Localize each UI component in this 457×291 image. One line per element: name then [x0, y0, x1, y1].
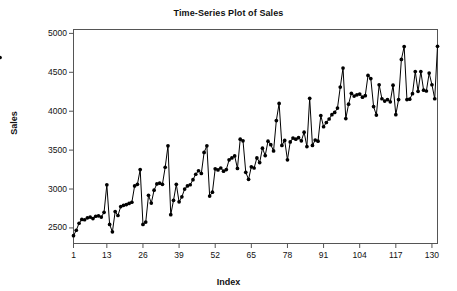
data-point: [169, 213, 173, 217]
data-point: [202, 151, 206, 155]
data-point: [163, 165, 167, 169]
data-point: [166, 144, 170, 148]
data-point: [261, 146, 265, 150]
data-point: [427, 71, 431, 75]
data-point: [372, 105, 376, 109]
data-point: [397, 98, 401, 102]
data-point: [344, 117, 348, 121]
data-point: [377, 83, 381, 87]
data-point: [194, 172, 198, 176]
data-point: [283, 139, 287, 143]
data-point: [322, 125, 326, 129]
chart-container: Time-Series Plot of Sales Sales Index 25…: [0, 0, 457, 291]
y-tick-label: 2500: [33, 222, 67, 232]
series-line: [74, 46, 438, 235]
data-point: [277, 102, 281, 106]
data-point: [363, 94, 367, 98]
data-point: [297, 136, 301, 140]
data-point: [311, 144, 315, 148]
y-tick-label: 5000: [33, 28, 67, 38]
data-point: [205, 144, 209, 148]
data-point: [236, 167, 240, 171]
data-point: [366, 74, 370, 78]
data-point: [197, 169, 201, 173]
data-point: [199, 172, 203, 176]
data-point: [144, 220, 148, 224]
data-point: [350, 91, 354, 95]
data-point: [413, 70, 417, 74]
data-point: [191, 178, 195, 182]
data-point: [394, 113, 398, 117]
data-point: [102, 211, 106, 215]
data-point: [272, 149, 276, 153]
data-point: [247, 177, 251, 181]
data-point: [388, 100, 392, 104]
data-point: [183, 187, 187, 191]
data-point: [347, 102, 351, 106]
data-point: [147, 193, 151, 197]
data-point: [269, 143, 273, 147]
data-point: [425, 89, 429, 93]
data-point: [391, 83, 395, 87]
data-point: [188, 183, 192, 187]
data-point: [258, 161, 262, 165]
data-point: [149, 201, 153, 205]
data-point: [113, 210, 117, 214]
data-point: [430, 83, 434, 87]
data-point: [111, 230, 115, 234]
data-point: [305, 145, 309, 149]
data-point: [302, 130, 306, 134]
data-point: [74, 228, 78, 232]
data-point: [411, 92, 415, 96]
data-point: [402, 45, 406, 49]
y-tick-label: 4000: [33, 106, 67, 116]
data-point: [358, 92, 362, 96]
data-point: [375, 113, 379, 117]
data-point: [433, 97, 437, 101]
x-tick-label: 39: [164, 250, 194, 260]
data-point: [224, 168, 228, 172]
data-point: [341, 66, 345, 70]
data-point: [336, 106, 340, 110]
data-point: [180, 195, 184, 199]
data-point: [161, 183, 165, 187]
data-point: [325, 121, 329, 125]
data-point: [152, 188, 156, 192]
data-point: [105, 183, 109, 187]
data-point: [436, 44, 440, 48]
data-point: [274, 119, 278, 123]
data-point: [266, 139, 270, 143]
data-point: [177, 200, 181, 204]
x-tick-label: 1: [59, 250, 89, 260]
x-tick-label: 91: [309, 250, 339, 260]
data-point: [333, 111, 337, 115]
data-point: [172, 198, 176, 202]
x-tick-label: 52: [200, 250, 230, 260]
data-point: [288, 140, 292, 144]
data-point: [400, 58, 404, 62]
data-point: [416, 90, 420, 94]
data-point: [255, 156, 259, 160]
data-point: [138, 168, 142, 172]
data-point: [174, 183, 178, 187]
x-tick-label: 78: [272, 250, 302, 260]
x-tick-label: 104: [345, 250, 375, 260]
x-tick-label: 117: [381, 250, 411, 260]
y-tick-label: 4500: [33, 67, 67, 77]
data-point: [0, 56, 2, 60]
data-point: [280, 144, 284, 148]
data-point: [208, 194, 212, 198]
data-point: [327, 117, 331, 121]
data-point: [77, 221, 81, 225]
data-point: [369, 77, 373, 81]
data-point: [286, 158, 290, 162]
data-point: [419, 70, 423, 74]
data-point: [241, 139, 245, 143]
y-tick-label: 3500: [33, 145, 67, 155]
data-point: [130, 200, 134, 204]
data-point: [316, 139, 320, 143]
x-tick-label: 26: [128, 250, 158, 260]
data-point: [252, 166, 256, 170]
data-point: [72, 234, 76, 238]
data-point: [136, 183, 140, 187]
